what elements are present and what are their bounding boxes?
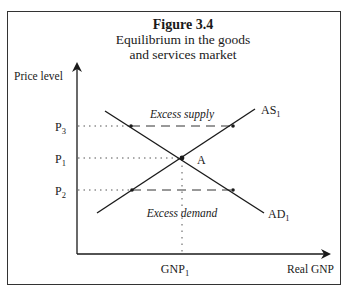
excess-demand-label: Excess demand	[146, 207, 218, 219]
figure-number: Figure 3.4	[153, 17, 213, 32]
equilibrium-label: A	[197, 153, 206, 167]
as-p3-point	[231, 124, 235, 128]
ad-p2-point	[231, 188, 235, 192]
price-label-p2: P2	[55, 184, 66, 200]
equilibrium-diagram: Figure 3.4 Equilibrium in the goods and …	[0, 0, 348, 296]
ad-curve-label: AD1	[268, 207, 290, 223]
x-axis-label: Real GNP	[287, 263, 334, 275]
excess-supply-label: Excess supply	[149, 108, 215, 121]
equilibrium-point	[180, 156, 185, 161]
figure-title-line-2: and services market	[129, 47, 236, 62]
price-label-p1: P1	[55, 152, 66, 168]
price-label-p3: P3	[55, 120, 66, 136]
aggregate-supply-curve	[97, 109, 255, 213]
y-axis-label: Price level	[14, 70, 63, 82]
figure-title-line-1: Equilibrium in the goods	[116, 32, 251, 47]
ad-p3-point	[129, 124, 133, 128]
as-p2-point	[130, 188, 134, 192]
gnp1-label: GNP1	[161, 262, 189, 278]
as-curve-label: AS1	[261, 103, 281, 119]
